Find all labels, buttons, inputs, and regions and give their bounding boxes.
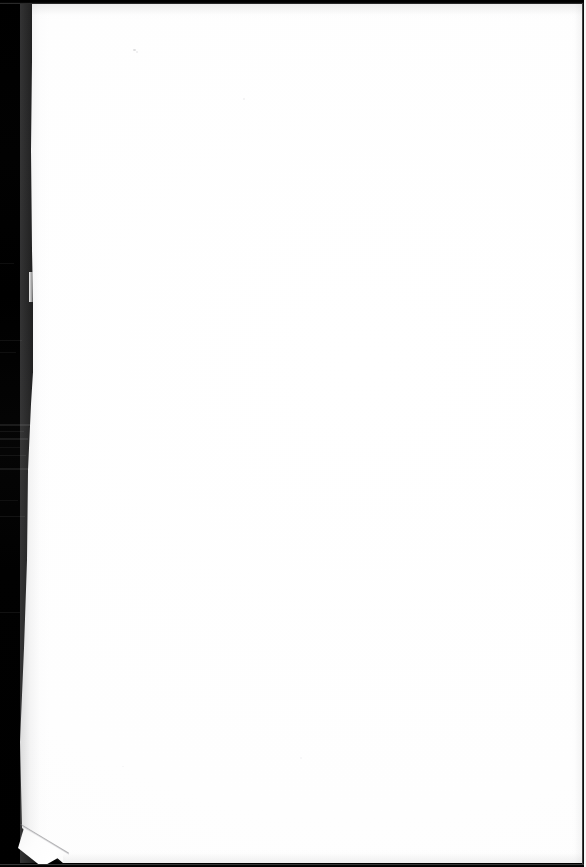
scanned-page-canvas [0, 0, 586, 867]
scan-streak-artifact [0, 438, 28, 440]
scan-streak-artifact [0, 516, 25, 517]
scan-streak-artifact [0, 612, 20, 613]
scan-top-edge-strip [0, 0, 586, 4]
scan-streak-artifact [0, 500, 18, 501]
scan-streak-artifact [0, 424, 30, 426]
scan-streak-artifact [0, 352, 16, 353]
scan-streak-artifact [0, 340, 22, 341]
scan-streak-artifact [0, 447, 20, 448]
scan-streak-artifact [0, 468, 31, 470]
document-page [0, 0, 586, 867]
scan-streak-artifact [0, 431, 24, 432]
scan-streak-artifact [0, 263, 14, 264]
scan-streak-artifact [0, 455, 26, 456]
